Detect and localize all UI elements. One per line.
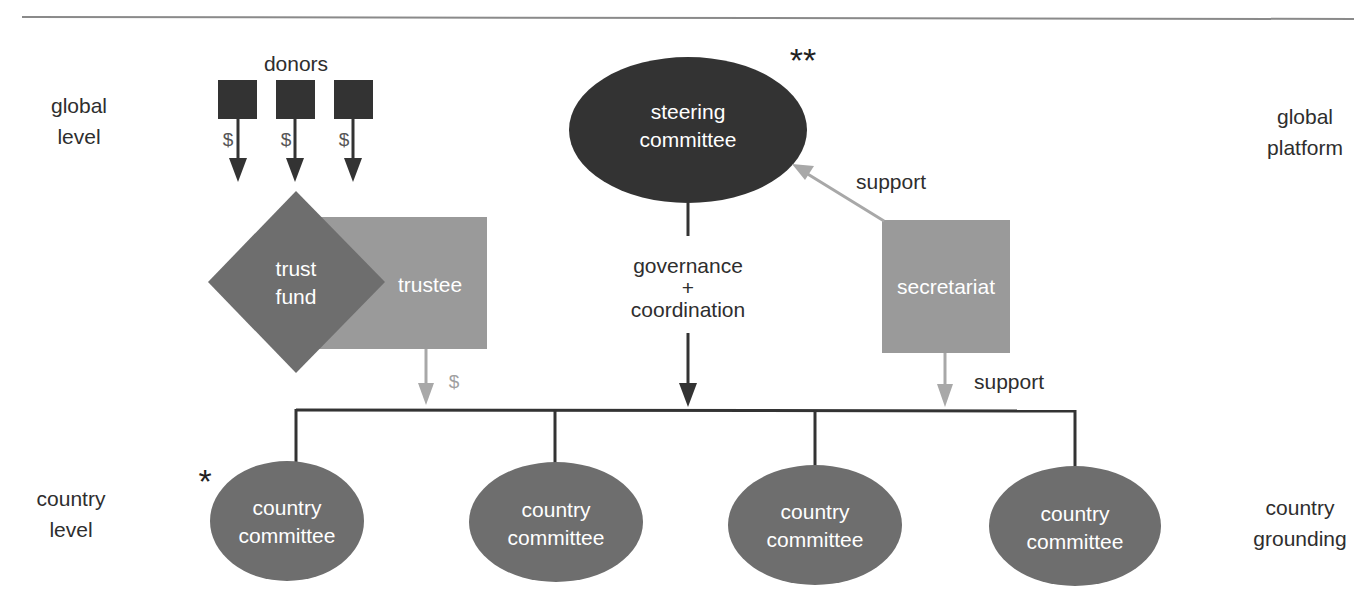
global-level-label: global level — [40, 90, 118, 152]
global-level-line1: global — [40, 90, 118, 121]
country-level-line1: country — [18, 483, 124, 514]
secretariat-label: secretariat — [882, 273, 1010, 301]
governance-label: governance + coordination — [608, 252, 768, 324]
donors-title: donors — [256, 50, 336, 77]
donor-box-2 — [276, 80, 315, 119]
trust-fund-line2: fund — [246, 283, 346, 311]
global-platform-label: global platform — [1250, 101, 1360, 163]
country-committee-2: country committee — [481, 496, 631, 552]
donor-dollar-3: $ — [336, 126, 352, 153]
country-committee-2-line2: committee — [481, 524, 631, 552]
donor-box-3 — [334, 80, 373, 119]
governance-line2: + — [608, 280, 768, 296]
steering-committee-footnote-marker: ** — [778, 42, 828, 78]
country-level-line2: level — [18, 514, 124, 545]
country-level-label: country level — [18, 483, 124, 545]
country-grounding-line1: country — [1230, 492, 1370, 523]
trust-fund-label: trust fund — [246, 255, 346, 311]
country-grounding-label: country grounding — [1230, 492, 1370, 554]
country-committee-2-line1: country — [481, 496, 631, 524]
governance-line3: coordination — [608, 296, 768, 324]
distribution-bar — [296, 409, 1075, 468]
country-committee-1-line1: country — [212, 494, 362, 522]
trust-fund-line1: trust — [246, 255, 346, 283]
top-divider — [22, 17, 1354, 19]
country-committee-3-line1: country — [740, 498, 890, 526]
country-committee-3: country committee — [740, 498, 890, 554]
country-committee-4: country committee — [1000, 500, 1150, 556]
steering-committee-line2: committee — [608, 126, 768, 154]
steering-committee-line1: steering — [608, 98, 768, 126]
global-level-line2: level — [40, 121, 118, 152]
donor-dollar-1: $ — [220, 126, 236, 153]
global-platform-line2: platform — [1250, 132, 1360, 163]
support-to-steering-label: support — [846, 168, 936, 195]
country-committee-1-line2: committee — [212, 522, 362, 550]
donor-dollar-2: $ — [278, 126, 294, 153]
donor-box-1 — [218, 80, 257, 119]
country-committee-1: country committee — [212, 494, 362, 550]
support-to-countries-label: support — [964, 368, 1054, 395]
steering-committee-label: steering committee — [608, 98, 768, 154]
country-committee-4-line1: country — [1000, 500, 1150, 528]
country-committee-3-line2: committee — [740, 526, 890, 554]
trustee-funding-arrow — [418, 349, 434, 405]
country-grounding-line2: grounding — [1230, 523, 1370, 554]
support-arrow-to-countries — [937, 353, 953, 407]
trustee-label: trustee — [380, 271, 480, 299]
country-committee-4-line2: committee — [1000, 528, 1150, 556]
global-platform-line1: global — [1250, 101, 1360, 132]
trustee-dollar: $ — [444, 368, 464, 395]
